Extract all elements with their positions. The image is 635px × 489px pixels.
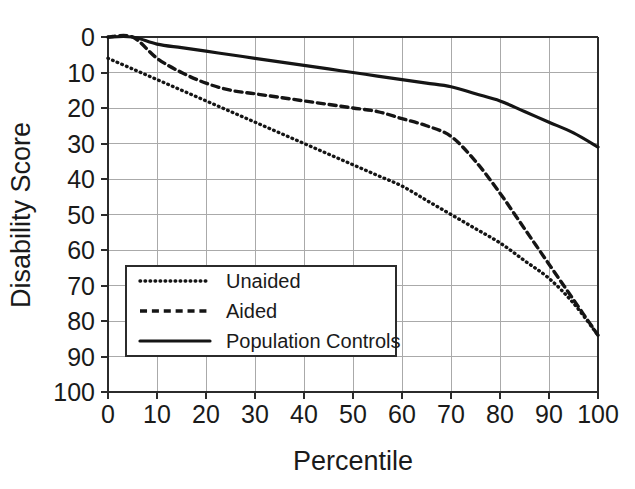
x-tick-label: 30 bbox=[241, 400, 269, 428]
x-tick-label: 80 bbox=[486, 400, 514, 428]
y-tick-label: 80 bbox=[67, 307, 95, 335]
y-tick-label: 90 bbox=[67, 343, 95, 371]
y-tick-label: 100 bbox=[53, 378, 95, 406]
y-tick-label: 50 bbox=[67, 201, 95, 229]
disability-score-percentile-chart: 0102030405060708090100 01020304050607080… bbox=[0, 0, 635, 489]
y-tick-label: 0 bbox=[81, 23, 95, 51]
x-tick-label: 0 bbox=[101, 400, 115, 428]
x-tick-label: 70 bbox=[437, 400, 465, 428]
y-tick-label: 20 bbox=[67, 94, 95, 122]
legend-label-aided[interactable]: Aided bbox=[226, 300, 277, 322]
y-tick-labels-group: 0102030405060708090100 bbox=[53, 23, 95, 406]
y-tick-label: 70 bbox=[67, 272, 95, 300]
x-axis-title: Percentile bbox=[293, 446, 413, 476]
legend-label-unaided[interactable]: Unaided bbox=[226, 270, 301, 292]
x-tick-label: 100 bbox=[577, 400, 619, 428]
y-tick-label: 60 bbox=[67, 236, 95, 264]
x-tick-labels-group: 0102030405060708090100 bbox=[101, 400, 619, 428]
x-tick-label: 10 bbox=[143, 400, 171, 428]
chart-figure: 0102030405060708090100 01020304050607080… bbox=[0, 0, 635, 489]
x-tick-label: 20 bbox=[192, 400, 220, 428]
y-tick-label: 40 bbox=[67, 165, 95, 193]
y-tick-label: 10 bbox=[67, 59, 95, 87]
x-tick-label: 40 bbox=[290, 400, 318, 428]
legend-label-population-controls[interactable]: Population Controls bbox=[226, 330, 401, 352]
x-tick-label: 50 bbox=[339, 400, 367, 428]
legend-group[interactable]: UnaidedAidedPopulation Controls bbox=[126, 266, 401, 356]
y-axis-title: Disability Score bbox=[6, 122, 36, 308]
x-tick-label: 60 bbox=[388, 400, 416, 428]
y-tick-label: 30 bbox=[67, 130, 95, 158]
x-tick-label: 90 bbox=[535, 400, 563, 428]
